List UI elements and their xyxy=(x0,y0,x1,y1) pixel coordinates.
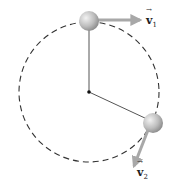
subscript-1: 1 xyxy=(152,21,156,29)
label-v2: v2 xyxy=(137,166,148,181)
rod-2 xyxy=(89,92,147,119)
circular-motion-diagram: v1 v2 xyxy=(0,0,175,187)
vector-symbol-v2: v xyxy=(137,166,143,179)
subscript-2: 2 xyxy=(143,173,147,181)
vector-symbol-v1: v xyxy=(146,14,152,27)
pivot-point xyxy=(87,90,91,94)
label-v1: v1 xyxy=(146,14,157,29)
ball-2 xyxy=(143,113,163,133)
ball-1 xyxy=(79,11,99,31)
